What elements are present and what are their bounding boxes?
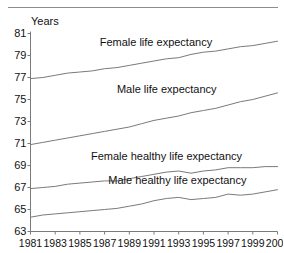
x-axis-tick-label: 1983 [42,237,68,249]
x-axis-tick-label: 1991 [141,237,167,249]
x-axis-tick-label: 1981 [18,237,44,249]
series-label-1: Male life expectancy [117,83,217,95]
series-label-3: Male healthy life expectancy [108,174,246,186]
y-axis-tick-label: 75 [5,93,27,105]
y-axis-tick-label: 81 [5,27,27,39]
y-axis-tick-label: 79 [5,49,27,61]
x-axis-tick-label: 1995 [190,237,216,249]
x-axis-tick-label: 1993 [166,237,192,249]
y-axis-tick-label: 77 [5,71,27,83]
y-axis-tick-label: 71 [5,137,27,149]
x-axis-tick-label: 2001 [265,237,284,249]
x-axis-tick-label: 1985 [67,237,93,249]
x-axis-tick-label: 1989 [116,237,142,249]
x-axis-tick-label: 1999 [240,237,266,249]
y-axis-tick-label: 73 [5,115,27,127]
y-axis-tick-label: 65 [5,203,27,215]
x-axis-tick-label: 1987 [92,237,118,249]
series-line-1 [31,93,278,145]
series-label-0: Female life expectancy [100,36,213,48]
y-axis-unit-label: Years [31,15,59,27]
y-axis-tick-label: 63 [5,225,27,237]
series-line-3 [31,190,278,218]
y-axis-tick-label: 69 [5,159,27,171]
chart-figure: Years 63656769717375777981 1981198319851… [0,0,283,253]
y-axis-tick-label: 67 [5,181,27,193]
series-label-2: Female healthy life expectancy [91,150,242,162]
x-axis-tick-label: 1997 [215,237,241,249]
